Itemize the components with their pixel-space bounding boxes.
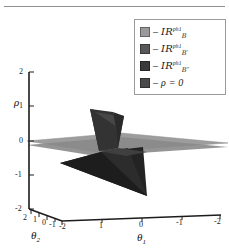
legend-label-ir-b-prime-math: IR <box>161 43 173 54</box>
tick-theta2-neg1: -1 <box>49 221 56 229</box>
tick-theta2-1: 1 <box>33 216 37 224</box>
tick-rho-1: 1 <box>19 102 23 110</box>
legend-label-ir-b-double-prime: IRph1B″ <box>161 61 189 71</box>
legend-label-ir-b-sup: ph1 <box>173 25 182 31</box>
axis-title-theta2-index: 2 <box>36 236 40 244</box>
tick-theta1-0: 0 <box>139 221 143 229</box>
legend-label-ir-b-prime-sup: ph1 <box>173 42 182 48</box>
legend-item-ir-b-double-prime[interactable]: – IRph1B″ <box>140 57 221 74</box>
axis-title-theta1: θ1 <box>137 232 146 243</box>
figure-3d-plot: ρ 2 1 0 -1 -2 2 1 0 -1 -2 θ2 1 0 -1 -2 θ… <box>0 0 229 250</box>
tick-theta1-neg1: -1 <box>176 219 183 227</box>
tick-rho-neg2: -2 <box>15 205 22 213</box>
axis-title-theta1-index: 1 <box>142 238 146 246</box>
tick-rho-0: 0 <box>19 137 23 145</box>
legend-label-ir-b-prime-sub: B′ <box>182 49 189 57</box>
color-swatch-icon <box>140 78 150 88</box>
legend-dash: – <box>153 44 158 54</box>
color-swatch-icon <box>140 61 150 71</box>
legend-label-rho-zero: ρ = 0 <box>161 78 184 88</box>
legend-label-ir-b: IRph1B <box>161 27 187 37</box>
legend: – IRph1B – IRph1B′ – IRph1B″ – ρ = 0 <box>134 19 226 95</box>
legend-label-ir-b-prime: IRph1B′ <box>161 44 188 54</box>
legend-dash: – <box>153 78 158 88</box>
legend-label-ir-b-sub: B <box>182 32 187 40</box>
tick-theta2-0: 0 <box>42 219 46 227</box>
legend-label-ir-b-double-prime-math: IR <box>161 60 173 71</box>
legend-label-ir-b-double-prime-sup: ph1 <box>173 59 182 65</box>
color-swatch-icon <box>140 44 150 54</box>
tick-theta2-2: 2 <box>23 214 27 222</box>
legend-item-ir-b[interactable]: – IRph1B <box>140 23 221 40</box>
tick-theta1-1: 1 <box>99 222 103 230</box>
tick-theta2-neg2: -2 <box>59 223 66 231</box>
tick-rho-neg1: -1 <box>15 171 22 179</box>
tick-rho-2: 2 <box>19 68 23 76</box>
legend-label-ir-b-math: IR <box>161 26 173 37</box>
legend-item-ir-b-prime[interactable]: – IRph1B′ <box>140 40 221 57</box>
legend-dash: – <box>153 61 158 71</box>
tick-theta1-neg2: -2 <box>214 218 221 226</box>
legend-label-ir-b-double-prime-sub: B″ <box>182 66 190 74</box>
color-swatch-icon <box>140 27 150 37</box>
legend-dash: – <box>153 27 158 37</box>
axis-title-theta2: θ2 <box>31 230 40 241</box>
legend-item-rho-zero[interactable]: – ρ = 0 <box>140 74 221 91</box>
